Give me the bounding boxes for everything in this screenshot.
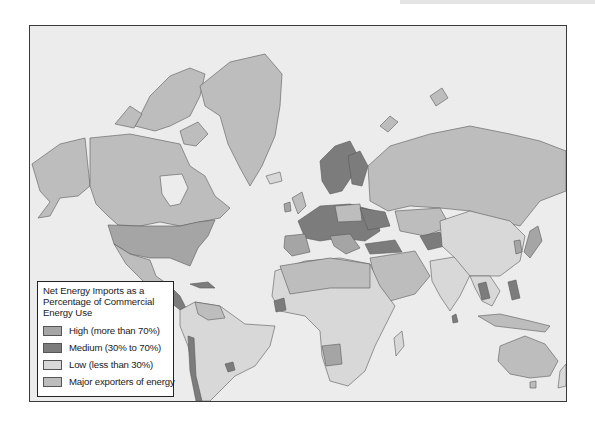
region-philippines — [508, 280, 520, 300]
region-poland — [335, 204, 362, 222]
region-madagascar — [394, 331, 404, 356]
region-japan — [524, 226, 542, 258]
legend-title-line-2: Percentage of Commercial — [43, 296, 169, 307]
legend-title: Net Energy Imports as a Percentage of Co… — [43, 285, 169, 318]
legend-title-line-1: Net Energy Imports as a — [43, 285, 169, 296]
region-australia — [498, 336, 558, 378]
legend-item-medium: Medium (30% to 70%) — [43, 339, 169, 356]
map-legend: Net Energy Imports as a Percentage of Co… — [37, 281, 174, 397]
region-new-zealand — [558, 364, 566, 388]
region-sri-lanka — [452, 314, 458, 323]
region-finland — [348, 151, 368, 186]
region-alaska — [32, 138, 90, 218]
legend-label-medium: Medium (30% to 70%) — [69, 342, 161, 353]
legend-item-low: Low (less than 30%) — [43, 356, 169, 373]
swatch-exporters — [43, 377, 62, 387]
swatch-high — [43, 326, 62, 336]
swatch-medium — [43, 343, 62, 353]
region-arctic-islands — [135, 68, 205, 131]
legend-title-line-3: Energy Use — [43, 307, 169, 318]
region-uk — [292, 192, 306, 214]
region-turkey — [365, 240, 402, 254]
region-iberia — [284, 234, 310, 256]
region-indonesia — [478, 314, 550, 332]
top-edge-shade — [400, 0, 595, 4]
legend-item-exporters: Major exporters of energy — [43, 373, 169, 390]
region-canada — [90, 134, 230, 226]
region-greenland — [200, 54, 282, 186]
legend-label-low: Low (less than 30%) — [69, 359, 153, 370]
swatch-low — [43, 360, 62, 370]
legend-label-high: High (more than 70%) — [69, 325, 160, 336]
legend-item-high: High (more than 70%) — [43, 322, 169, 339]
legend-label-exporters: Major exporters of energy — [69, 376, 175, 387]
region-ireland — [284, 202, 291, 212]
